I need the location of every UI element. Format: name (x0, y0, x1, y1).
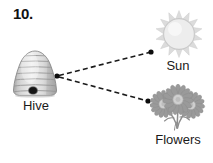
diagram-canvas: 10. (0, 0, 213, 163)
edge-hive-to-flowers (59, 77, 146, 101)
hive-entrance-hole (29, 87, 38, 95)
sun-icon (154, 9, 204, 59)
edge-endpoint-dot-sun (148, 49, 153, 54)
dashed-line-hive-flowers (59, 77, 146, 101)
sun-highlight (168, 22, 182, 36)
sun-label: Sun (146, 59, 210, 72)
hive-label: Hive (0, 99, 72, 112)
dashed-line-hive-sun (59, 53, 149, 76)
flowers-label: Flowers (143, 133, 213, 146)
beehive-icon (8, 48, 66, 98)
edge-hive-to-sun (59, 53, 149, 76)
flowers-icon (150, 84, 206, 134)
